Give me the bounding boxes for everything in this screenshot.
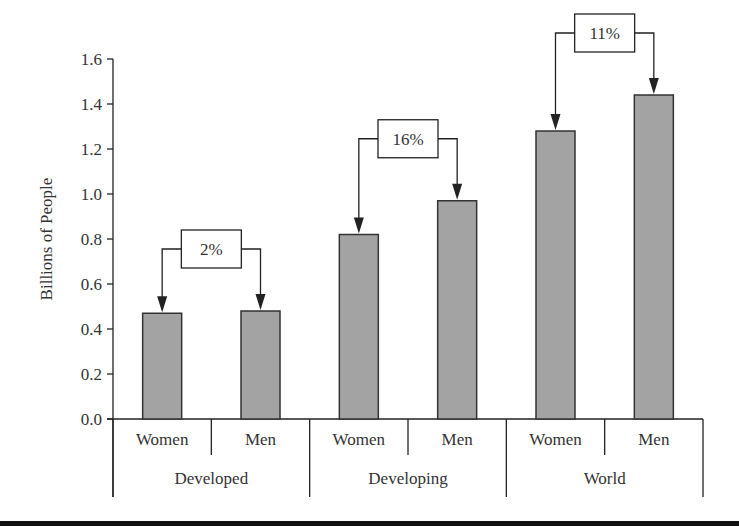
x-axis: DevelopedWomenMenDevelopingWomenMenWorld… xyxy=(107,419,703,497)
category-label: Women xyxy=(333,430,386,449)
y-tick-label: 0.8 xyxy=(81,230,102,249)
arrowhead-icon xyxy=(256,294,266,310)
connector-line xyxy=(162,249,181,298)
connector-line xyxy=(359,139,378,220)
y-tick-label: 1.4 xyxy=(81,95,103,114)
connector-line xyxy=(438,139,457,186)
connector-line xyxy=(556,33,575,116)
arrowhead-icon xyxy=(452,184,462,200)
bar-developing-women xyxy=(339,235,378,420)
arrowhead-icon xyxy=(551,114,561,130)
y-axis: 0.00.20.40.60.81.01.21.41.6 xyxy=(81,50,113,497)
y-tick-label: 1.2 xyxy=(81,140,102,159)
bottom-rule-divider xyxy=(0,521,739,526)
bar-chart: 0.00.20.40.60.81.01.21.41.6 Billions of … xyxy=(0,0,739,532)
category-label: Men xyxy=(442,430,474,449)
bar-world-men xyxy=(634,95,673,419)
difference-label: 2% xyxy=(200,240,223,259)
bar-world-women xyxy=(536,131,575,419)
y-tick-label: 0.6 xyxy=(81,275,102,294)
difference-annotation: 2% xyxy=(157,230,265,312)
y-tick-label: 0.0 xyxy=(81,410,102,429)
arrowhead-icon xyxy=(157,296,167,312)
group-label: Developed xyxy=(175,469,249,488)
difference-label: 11% xyxy=(589,24,620,43)
bar-developed-men xyxy=(241,311,280,419)
arrowhead-icon xyxy=(354,218,364,234)
bar-developed-women xyxy=(143,313,182,419)
connector-line xyxy=(635,33,654,80)
y-tick-label: 0.2 xyxy=(81,365,102,384)
category-label: Women xyxy=(136,430,189,449)
category-label: Women xyxy=(529,430,582,449)
y-axis-label: Billions of People xyxy=(37,178,56,301)
difference-label: 16% xyxy=(392,130,423,149)
bar-developing-men xyxy=(438,201,477,419)
category-label: Men xyxy=(638,430,670,449)
difference-annotations: 2%16%11% xyxy=(157,14,659,312)
group-label: World xyxy=(584,469,627,488)
y-tick-label: 0.4 xyxy=(81,320,103,339)
connector-line xyxy=(241,249,260,296)
y-tick-label: 1.6 xyxy=(81,50,102,69)
y-tick-label: 1.0 xyxy=(81,185,102,204)
arrowhead-icon xyxy=(649,78,659,94)
category-label: Men xyxy=(245,430,277,449)
group-label: Developing xyxy=(368,469,448,488)
